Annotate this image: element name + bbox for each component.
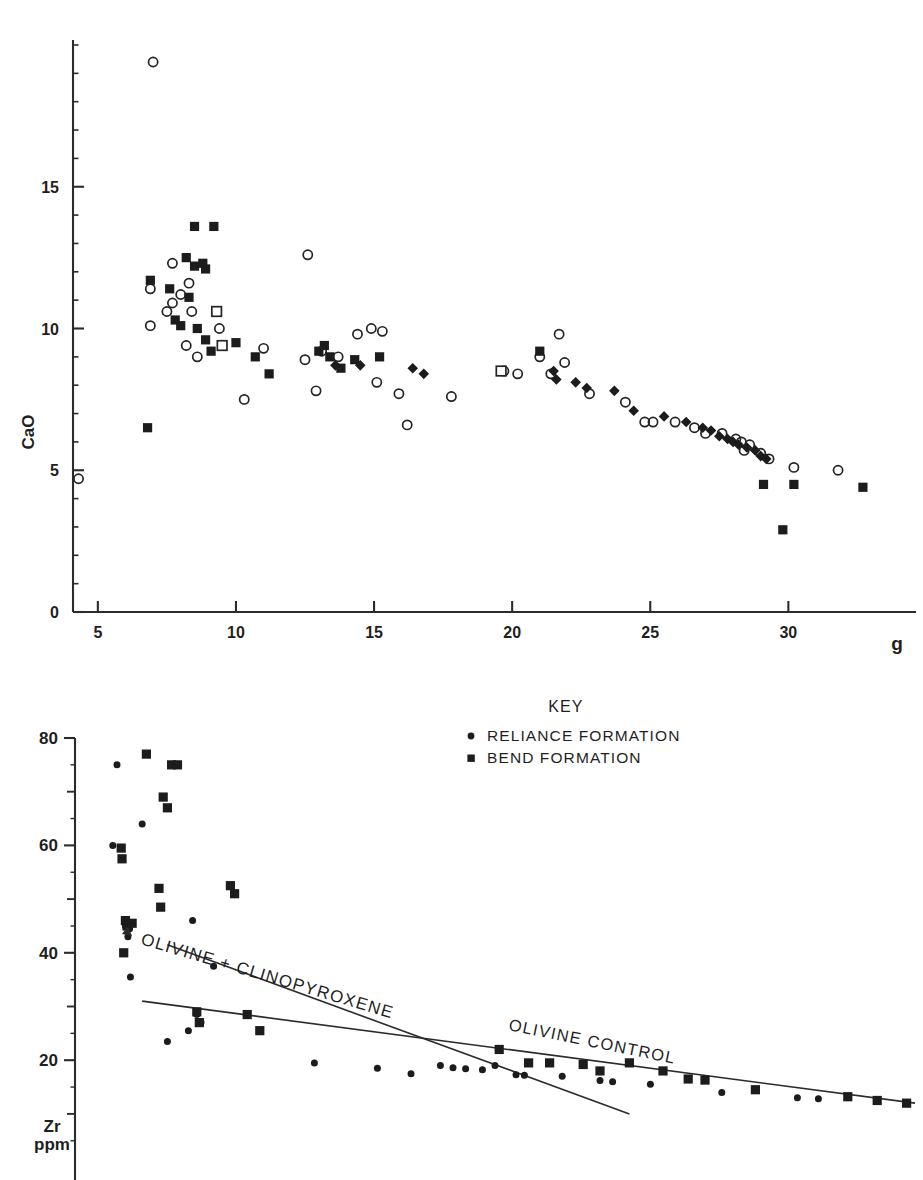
data-point-filled-square [207,347,216,356]
data-point-filled-circle [437,1062,444,1069]
data-point-filled-diamond [418,369,429,380]
y-tick-label: 10 [41,321,59,338]
data-point-filled-square [159,792,168,801]
data-point-filled-square [176,321,185,330]
data-point-filled-diamond [706,425,717,436]
x-tick-label: 10 [227,624,245,641]
data-point-filled-square [184,293,193,302]
data-point-open-circle [74,474,83,483]
data-point-open-circle [162,307,171,316]
data-point-open-circle [184,279,193,288]
data-point-filled-square [778,525,787,534]
data-point-filled-square [146,276,155,285]
series-filled-diamond [330,360,771,464]
data-point-open-circle [193,352,202,361]
y-tick-label: 15 [41,179,59,196]
data-point-open-circle [176,290,185,299]
data-point-open-circle [560,358,569,367]
data-point-filled-square [156,903,165,912]
data-point-filled-circle [492,1062,499,1069]
data-point-open-circle [148,57,157,66]
data-point-open-square [212,307,222,317]
x-tick-label: 30 [779,624,797,641]
data-point-filled-diamond [609,386,620,397]
data-point-filled-circle [559,1073,566,1080]
x-tick-label: 5 [93,624,102,641]
data-point-open-circle [833,466,842,475]
data-point-open-circle [513,369,522,378]
y-tick-label: 40 [39,944,58,963]
data-point-filled-circle [114,761,121,768]
data-point-filled-diamond [551,374,562,385]
data-point-filled-square [320,341,329,350]
series-filled-square [143,222,868,535]
y-tick-label: 20 [39,1051,58,1070]
data-point-filled-square [251,352,260,361]
data-point-open-circle [146,284,155,293]
upper-tick-labels: 05101551015202530 [41,179,797,641]
data-point-open-circle [259,344,268,353]
legend-marker-bend [467,755,474,762]
data-point-filled-circle [718,1089,725,1096]
data-point-open-circle [447,392,456,401]
data-point-filled-diamond [581,383,592,394]
x-tick-label: 15 [365,624,383,641]
data-point-filled-square [190,222,199,231]
data-point-filled-diamond [570,377,581,388]
data-point-filled-square [243,1010,252,1019]
series-open-circle [74,57,843,483]
zr-vs-mgo-chart: 20406080 Zr ppm KEY RELIANCE FORMATION B… [0,680,923,1180]
y-tick-label: 0 [50,604,59,621]
data-point-filled-diamond [548,366,559,377]
data-point-filled-square [545,1058,554,1067]
data-point-filled-circle [139,820,146,827]
data-point-filled-circle [479,1066,486,1073]
annotation-olivine-cpx-text: OLIVINE + CLINOPYROXENE [139,930,396,1023]
data-point-filled-square [190,262,199,271]
data-point-open-circle [378,327,387,336]
data-point-open-circle [403,420,412,429]
data-point-filled-circle [462,1065,469,1072]
data-point-filled-diamond [714,431,725,442]
data-point-filled-square [700,1075,709,1084]
data-point-filled-square [117,843,126,852]
data-point-filled-circle [374,1065,381,1072]
data-point-filled-circle [513,1071,520,1078]
y-tick-label: 80 [39,729,58,748]
data-point-filled-square [119,948,128,957]
x-tick-label: 25 [641,624,659,641]
data-point-filled-square [182,253,191,262]
lower-data-points [109,750,911,1108]
data-point-filled-square [265,369,274,378]
y-axis-title-cao: CaO [19,415,38,450]
data-point-filled-square [325,352,334,361]
data-point-open-circle [353,330,362,339]
data-point-filled-circle [450,1064,457,1071]
data-point-filled-diamond [697,422,708,433]
x-axis-title-g: g [891,633,903,654]
figure-container: 05101551015202530 CaO g 20406080 Zr ppm … [0,0,923,1180]
series-filled-square [117,750,912,1108]
data-point-filled-square [873,1096,882,1105]
data-point-filled-square [495,1045,504,1054]
data-point-filled-diamond [742,442,753,453]
data-point-filled-square [154,884,163,893]
trendline-olivine-control [142,1001,915,1103]
data-point-open-circle [367,324,376,333]
data-point-filled-square [658,1066,667,1075]
data-point-open-circle [303,250,312,259]
data-point-filled-circle [609,1078,616,1085]
data-point-filled-square [201,335,210,344]
data-point-open-circle [394,389,403,398]
data-point-open-circle [671,417,680,426]
data-point-filled-circle [185,1027,192,1034]
data-point-filled-circle [127,973,134,980]
data-point-filled-square [173,760,182,769]
data-point-filled-circle [597,1077,604,1084]
data-point-filled-square [231,338,240,347]
data-point-filled-circle [164,1038,171,1045]
data-point-filled-square [759,480,768,489]
data-point-filled-square [226,881,235,890]
legend-marker-reliance [468,733,475,740]
data-point-open-circle [300,355,309,364]
